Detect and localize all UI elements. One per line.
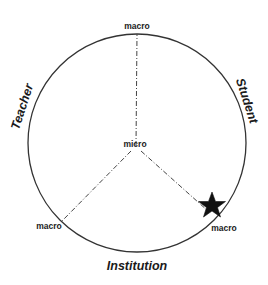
macro-label-top: macro — [124, 21, 150, 31]
teacher-label: Teacher — [8, 81, 36, 132]
macro-label-lower-left: macro — [36, 221, 62, 231]
diagram-canvas: macro micro macro macro Teacher Student … — [0, 0, 268, 285]
star-marker-icon — [199, 192, 226, 217]
axis-top — [136, 34, 137, 146]
micro-label-center: micro — [123, 139, 146, 149]
institution-label: Institution — [107, 259, 168, 273]
axis-lower-right — [141, 151, 208, 211]
macro-label-lower-right: macro — [211, 223, 237, 233]
axis-lower-left — [62, 151, 131, 221]
